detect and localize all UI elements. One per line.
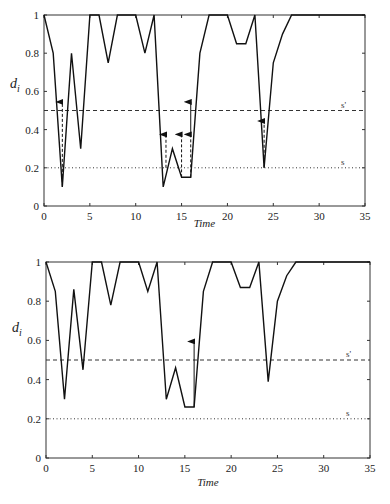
x-tick-label: 35 (365, 462, 377, 474)
x-tick-label: 15 (176, 210, 188, 222)
y-tick-label: 0.6 (25, 85, 39, 97)
x-axis-label: Time (194, 217, 216, 229)
top-chart: 0510152025303500.20.40.60.81Timedis's (0, 0, 390, 250)
bottom-chart: 0510152025303500.20.40.60.81Timedis's (0, 250, 390, 504)
y-tick-label: 0.8 (25, 47, 39, 59)
x-tick-label: 10 (130, 210, 142, 222)
x-tick-label: 30 (318, 462, 330, 474)
x-tick-label: 20 (226, 462, 238, 474)
y-tick-label: 0 (34, 200, 40, 212)
data-line (44, 15, 365, 187)
plot-frame (44, 15, 365, 206)
x-tick-label: 35 (360, 210, 372, 222)
y-tick-label: 0.4 (27, 374, 41, 386)
x-tick-label: 10 (133, 462, 145, 474)
y-tick-label: 0.8 (27, 295, 41, 307)
x-axis-label: Time (197, 476, 219, 488)
threshold-label: s (341, 157, 345, 167)
x-tick-label: 15 (179, 462, 191, 474)
y-tick-label: 1 (34, 9, 40, 21)
x-tick-label: 5 (87, 210, 93, 222)
y-tick-label: 1 (36, 256, 42, 268)
y-tick-label: 0.2 (27, 413, 41, 425)
threshold-label: s (346, 408, 350, 418)
x-tick-label: 0 (43, 462, 49, 474)
x-tick-label: 30 (314, 210, 326, 222)
y-tick-label: 0.4 (25, 124, 39, 136)
x-tick-label: 0 (41, 210, 47, 222)
y-axis-label: di (10, 76, 20, 94)
threshold-label: s' (346, 349, 352, 359)
y-tick-label: 0 (36, 452, 42, 464)
x-tick-label: 25 (268, 210, 280, 222)
y-tick-label: 0.6 (27, 334, 41, 346)
y-axis-label: di (12, 320, 22, 338)
threshold-label: s' (341, 100, 347, 110)
x-tick-label: 20 (222, 210, 234, 222)
x-tick-label: 25 (272, 462, 284, 474)
data-line (46, 262, 370, 407)
y-tick-label: 0.2 (25, 162, 39, 174)
x-tick-label: 5 (90, 462, 96, 474)
